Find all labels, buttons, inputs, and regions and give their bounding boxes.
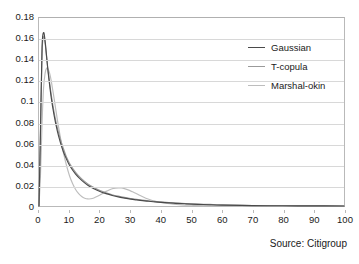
y-axis-tick-label: 0.02 — [0, 181, 34, 190]
legend-label: Gaussian — [271, 42, 311, 53]
gridline — [39, 166, 344, 167]
x-axis-tick-label: 30 — [115, 214, 145, 225]
x-axis-tick-label: 80 — [269, 214, 299, 225]
x-axis-tick-label: 90 — [299, 214, 329, 225]
legend-label: Marshal-okin — [271, 80, 325, 91]
x-axis-tick-mark — [99, 210, 100, 213]
gridline — [39, 145, 344, 146]
x-axis-tick-label: 100 — [330, 214, 359, 225]
x-axis-tick-label: 50 — [177, 214, 207, 225]
x-axis-tick-mark — [130, 210, 131, 213]
legend-item[interactable]: T-copula — [248, 59, 344, 73]
x-axis-tick-mark — [192, 210, 193, 213]
x-axis-tick-mark — [253, 210, 254, 213]
gridline — [39, 187, 344, 188]
x-axis-tick-labels: 0102030405060708090100 — [38, 210, 345, 224]
x-axis-tick-label: 10 — [54, 214, 84, 225]
x-axis-tick-mark — [69, 210, 70, 213]
y-axis-tick-label: 0.18 — [0, 12, 34, 21]
x-axis-tick-label: 40 — [146, 214, 176, 225]
source-note: Source: Citigroup — [270, 238, 347, 249]
x-axis-tick-label: 0 — [23, 214, 53, 225]
y-axis-tick-label: 0.04 — [0, 160, 34, 169]
legend-label: T-copula — [271, 61, 307, 72]
x-axis-tick-label: 20 — [84, 214, 114, 225]
y-axis-tick-label: 0.06 — [0, 139, 34, 148]
x-axis-tick-mark — [284, 210, 285, 213]
y-axis-tick-label: 0.16 — [0, 33, 34, 42]
legend-color-swatch — [248, 47, 265, 48]
y-axis-tick-label: 0.08 — [0, 118, 34, 127]
legend-item[interactable]: Gaussian — [248, 40, 344, 54]
x-axis-tick-mark — [314, 210, 315, 213]
y-axis-tick-label: 0.12 — [0, 75, 34, 84]
x-axis-tick-label: 70 — [238, 214, 268, 225]
legend-item[interactable]: Marshal-okin — [248, 78, 344, 92]
y-axis-tick-label: 0.14 — [0, 54, 34, 63]
y-axis-tick-labels: 00.020.040.060.080.10.120.140.160.18 — [0, 17, 34, 207]
x-axis-tick-mark — [161, 210, 162, 213]
x-axis-tick-mark — [222, 210, 223, 213]
chart-legend: GaussianT-copulaMarshal-okin — [248, 40, 344, 97]
x-axis-tick-mark — [345, 210, 346, 213]
chart-container: 00.020.040.060.080.10.120.140.160.18 010… — [0, 0, 359, 264]
y-axis-tick-label: 0.1 — [0, 96, 34, 105]
x-axis-tick-mark — [38, 210, 39, 213]
gridline — [39, 124, 344, 125]
legend-color-swatch — [248, 66, 265, 67]
legend-color-swatch — [248, 85, 265, 86]
x-axis-tick-label: 60 — [207, 214, 237, 225]
gridline — [39, 102, 344, 103]
y-axis-tick-label: 0 — [0, 202, 34, 211]
